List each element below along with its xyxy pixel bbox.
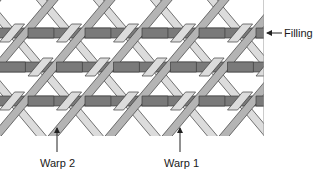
filling-segment	[171, 62, 197, 72]
filling-segment	[57, 62, 83, 72]
filling-segment	[228, 62, 254, 72]
filling-segment	[28, 28, 54, 38]
filling-segment	[85, 96, 111, 106]
filling-segment	[142, 28, 168, 38]
filling-segment	[256, 96, 282, 106]
filling-segment	[199, 96, 225, 106]
warp1-label: Warp 1	[164, 157, 199, 169]
filling-segment	[313, 96, 317, 106]
filling-segment	[142, 96, 168, 106]
warp-strand-right	[256, 0, 317, 160]
filling-segment	[28, 96, 54, 106]
warp-crossing	[313, 58, 317, 76]
warp-strand-right	[313, 0, 317, 160]
filling-segment	[0, 62, 25, 72]
filling-segment	[313, 28, 317, 38]
warp2-label: Warp 2	[40, 157, 75, 169]
filling-segment	[199, 28, 225, 38]
triaxial-weave-diagram	[0, 0, 317, 174]
filling-segment	[85, 28, 111, 38]
weave-pattern	[0, 0, 317, 160]
filling-segment	[285, 62, 311, 72]
filling-label: Filling	[284, 27, 313, 39]
warp-crossing	[285, 92, 310, 110]
filling-segment	[114, 62, 140, 72]
